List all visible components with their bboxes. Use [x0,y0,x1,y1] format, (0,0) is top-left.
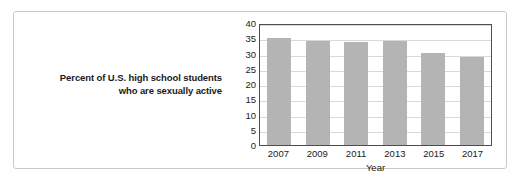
bar-2017 [460,57,484,145]
x-tick-label: 2009 [300,148,334,161]
y-tick-label: 30 [230,50,256,60]
plot-area [259,24,492,146]
y-tick-label: 10 [230,111,256,121]
bar-2009 [306,41,330,145]
chart-caption-line-2: who are sexually active [24,85,222,98]
x-tick-label: 2013 [378,148,412,161]
x-axis-title: Year [259,162,492,173]
y-tick-label: 35 [230,35,256,45]
bar-series [260,25,491,145]
bar-2007 [267,38,291,145]
bar-chart: 4035302520151050 20072009201120132015201… [230,18,498,168]
x-tick-label: 2007 [261,148,295,161]
y-tick-label: 5 [230,126,256,136]
bar-2011 [344,42,368,145]
y-tick-label: 25 [230,65,256,75]
figure-panel: Percent of U.S. high school students who… [13,11,507,169]
y-tick-label: 40 [230,19,256,29]
x-tick-label: 2015 [417,148,451,161]
y-tick-label: 20 [230,80,256,90]
x-tick-label: 2011 [339,148,373,161]
chart-caption-line-1: Percent of U.S. high school students [24,72,222,85]
bar-2013 [383,41,407,145]
x-tick-label: 2017 [456,148,490,161]
x-axis: 200720092011201320152017 [259,148,492,161]
bar-2015 [421,53,445,145]
chart-caption: Percent of U.S. high school students who… [24,72,222,97]
y-tick-label: 0 [230,141,256,151]
y-axis: 4035302520151050 [230,18,256,146]
y-tick-label: 15 [230,96,256,106]
